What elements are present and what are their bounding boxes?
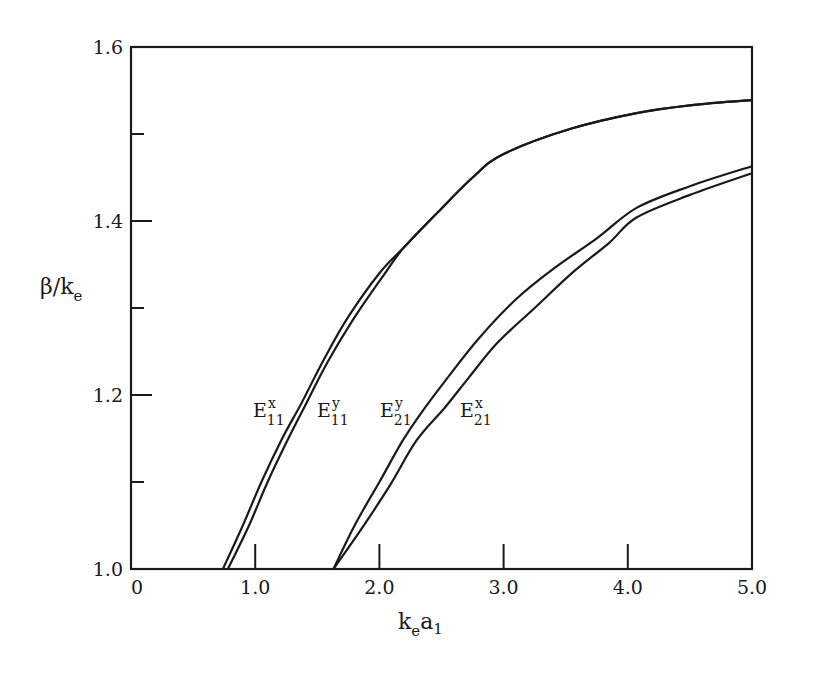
chart: 01.02.03.04.05.0 1.01.21.41.6 Ex11 Ey11 … <box>0 0 813 678</box>
y-axis-label: β/ke <box>40 274 82 305</box>
x-tick-label: 5.0 <box>737 576 767 598</box>
y-tick-label: 1.6 <box>93 36 123 58</box>
label-e21x: Ex21 <box>460 395 492 428</box>
curve-e11x <box>223 100 752 569</box>
y-tick-label: 1.0 <box>93 558 123 580</box>
y-tick-label: 1.4 <box>93 210 123 232</box>
curve-e11y <box>228 100 752 569</box>
x-tick-label: 3.0 <box>488 576 518 598</box>
x-tick-label: 0 <box>131 576 143 598</box>
curve-e21x <box>333 173 752 569</box>
curve-e21y <box>333 166 752 569</box>
x-tick-label: 1.0 <box>240 576 270 598</box>
label-e11y: Ey11 <box>317 395 349 428</box>
y-tick-label: 1.2 <box>93 384 123 406</box>
plot-frame <box>131 47 752 569</box>
x-axis-ticks: 01.02.03.04.05.0 <box>131 544 767 598</box>
x-axis-label: kea1 <box>398 609 443 640</box>
y-axis-ticks: 1.01.21.41.6 <box>93 36 152 580</box>
x-tick-label: 2.0 <box>364 576 394 598</box>
curves <box>223 100 752 569</box>
x-tick-label: 4.0 <box>613 576 643 598</box>
label-e21y: Ey21 <box>380 395 412 428</box>
label-e11x: Ex11 <box>253 395 285 428</box>
